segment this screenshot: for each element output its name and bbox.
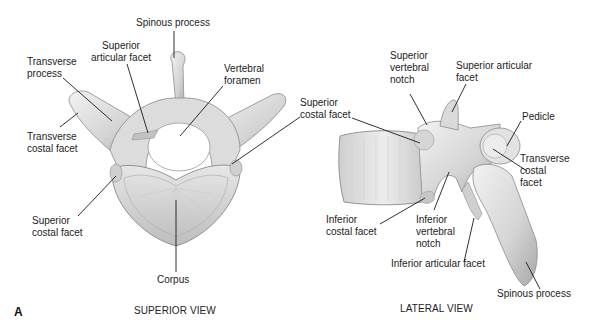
label-transverse-process: Transverse process bbox=[27, 56, 77, 80]
label-inferior-vertebral-notch: Inferior vertebral notch bbox=[416, 214, 455, 250]
label-inferior-articular-facet: Inferior articular facet bbox=[391, 258, 485, 270]
caption-lateral-view: LATERAL VIEW bbox=[400, 303, 473, 314]
label-vertebral-foramen: Vertebral foramen bbox=[224, 63, 264, 87]
label-superior-articular-facet-lateral: Superior articular facet bbox=[456, 60, 532, 84]
label-spinous-process-lateral: Spinous process bbox=[497, 288, 571, 300]
label-superior-costal-facet-lateral: Superior costal facet bbox=[300, 97, 351, 121]
label-superior-articular-facet-superior: Superior articular facet bbox=[91, 40, 151, 64]
label-spinous-process-superior: Spinous process bbox=[136, 17, 210, 29]
label-pedicle: Pedicle bbox=[522, 111, 555, 123]
vertebra-illustration bbox=[0, 0, 596, 334]
label-transverse-costal-facet-lateral: Transverse costal facet bbox=[520, 153, 570, 189]
label-transverse-costal-facet-superior: Transverse costal facet bbox=[27, 131, 78, 155]
label-superior-costal-facet-superior: Superior costal facet bbox=[32, 215, 83, 239]
caption-superior-view: SUPERIOR VIEW bbox=[134, 305, 216, 316]
label-superior-vertebral-notch: Superior vertebral notch bbox=[390, 50, 429, 86]
label-inferior-costal-facet: Inferior costal facet bbox=[326, 214, 377, 238]
panel-letter: A bbox=[14, 305, 23, 319]
label-corpus: Corpus bbox=[157, 274, 189, 286]
